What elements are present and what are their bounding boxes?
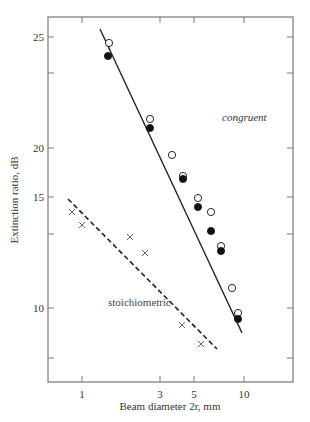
- filled-circle-marker: [104, 52, 111, 59]
- cross-marker: [198, 341, 204, 347]
- cross-marker: [142, 250, 148, 256]
- filled-circle-marker: [194, 203, 201, 210]
- filled-circle-marker: [217, 247, 224, 254]
- filled-circle-marker: [146, 124, 153, 131]
- open-circle-marker: [207, 208, 214, 215]
- x-axis-label: Beam diameter 2r, mm: [120, 400, 221, 412]
- filled-circle-marker: [179, 175, 186, 182]
- cross-marker: [127, 234, 133, 240]
- x-tick-label: 1: [79, 388, 85, 400]
- tick-labels: 1351025201510: [33, 31, 250, 400]
- congruent-fit-line: [100, 29, 242, 333]
- cross-marker: [79, 222, 85, 228]
- y-axis-label: Extinction ratio, dB: [8, 156, 20, 243]
- annotation-congruent: congruent: [222, 111, 268, 123]
- axis-ticks: [48, 17, 293, 382]
- open-circle-marker: [194, 194, 201, 201]
- extinction-ratio-chart: 1351025201510 congruentstoichiometric Be…: [0, 0, 310, 422]
- open-circle-marker: [228, 284, 235, 291]
- cross-marker: [179, 322, 185, 328]
- plot-frame: [48, 17, 293, 382]
- open-circle-marker: [168, 151, 175, 158]
- cross-marker: [69, 209, 75, 215]
- x-tick-label: 10: [239, 388, 251, 400]
- x-tick-label: 5: [191, 388, 197, 400]
- y-tick-label: 10: [33, 302, 45, 314]
- series-annotations: congruentstoichiometric: [108, 111, 268, 308]
- y-tick-label: 15: [33, 191, 45, 203]
- y-tick-label: 20: [33, 142, 45, 154]
- stoichiometric-fit-line: [68, 199, 217, 349]
- x-tick-label: 3: [157, 388, 163, 400]
- filled-circle-marker: [207, 227, 214, 234]
- annotation-stoichiometric: stoichiometric: [108, 296, 171, 308]
- y-tick-label: 25: [33, 31, 45, 43]
- filled-circle-marker: [234, 315, 241, 322]
- open-circle-marker: [105, 39, 112, 46]
- open-circle-marker: [146, 115, 153, 122]
